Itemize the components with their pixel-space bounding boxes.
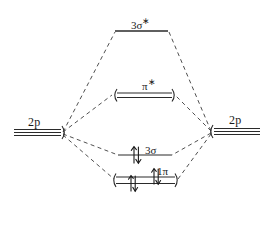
atomic-orbital-right-label: 2p bbox=[229, 114, 241, 126]
mo-label-pi-star: π∗ bbox=[142, 78, 156, 92]
atomic-orbital-left-label: 2p bbox=[28, 116, 40, 128]
mo-diagram-canvas: 2p 2p 3σ∗ π∗ 3σ 1π bbox=[0, 0, 273, 228]
mo-bracket-pi-1-left bbox=[114, 174, 116, 188]
mo-bracket-pi-1-right bbox=[175, 174, 177, 188]
correlation-line-left-to-pistar bbox=[63, 95, 112, 132]
mo-label-sigma-3-star: 3σ∗ bbox=[131, 17, 150, 31]
mo-bracket-pi-star-right bbox=[172, 89, 174, 102]
ao-right-bracket bbox=[211, 125, 213, 138]
mo-label-sigma-3-star-superscript: ∗ bbox=[142, 16, 150, 26]
ao-left-bracket bbox=[62, 126, 64, 139]
mo-bracket-pi-star-left bbox=[115, 89, 117, 102]
correlation-lines-left bbox=[63, 32, 118, 179]
correlation-line-right-to-pi1 bbox=[178, 134, 211, 179]
correlation-line-right-to-sigma3star bbox=[169, 32, 211, 131]
correlation-line-right-to-sigma3 bbox=[172, 133, 211, 155]
correlation-line-left-to-pi1 bbox=[63, 135, 114, 179]
correlation-line-right-to-pistar bbox=[176, 96, 211, 131]
correlation-line-left-to-sigma3 bbox=[63, 134, 118, 155]
mo-label-pi-1: 1π bbox=[157, 166, 168, 177]
mo-label-sigma-3: 3σ bbox=[145, 145, 156, 156]
mo-label-pi-star-superscript: ∗ bbox=[148, 77, 156, 87]
correlation-lines-right bbox=[169, 32, 211, 179]
correlation-line-left-to-sigma3star bbox=[63, 32, 115, 132]
mo-label-sigma-3-star-text: 3σ bbox=[131, 19, 142, 31]
